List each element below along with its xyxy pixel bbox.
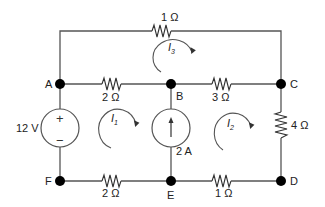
loop-arrow-i3 xyxy=(153,40,192,72)
label-i-src: 2 A xyxy=(176,145,193,157)
right-branch xyxy=(275,84,287,181)
label-node-c: C xyxy=(290,78,298,90)
plus-sign: + xyxy=(56,111,64,126)
label-node-b: B xyxy=(176,90,183,102)
label-r-top: 1 Ω xyxy=(161,11,178,23)
node-c xyxy=(276,79,286,89)
resistor-bc-3ohm xyxy=(212,78,231,90)
wire-top-right xyxy=(171,31,281,84)
resistor-fe-2ohm xyxy=(102,175,121,187)
label-r-cd: 4 Ω xyxy=(291,119,308,131)
resistor-cd-4ohm xyxy=(275,112,287,138)
node-a xyxy=(55,79,65,89)
node-e xyxy=(166,176,176,186)
label-i3: I3 xyxy=(168,41,175,55)
label-v-src: 12 V xyxy=(16,122,39,134)
label-i2: I2 xyxy=(227,117,234,131)
resistor-ab-2ohm xyxy=(102,78,121,90)
label-r-fe: 2 Ω xyxy=(102,187,119,199)
node-d xyxy=(276,176,286,186)
arrow-i2-icon xyxy=(247,122,254,129)
minus-sign: − xyxy=(56,133,64,148)
resistor-ed-1ohm xyxy=(212,175,231,187)
arrow-i1-icon xyxy=(132,120,139,127)
label-r-ed: 1 Ω xyxy=(215,187,232,199)
middle-branch xyxy=(152,84,190,181)
loop-arrow-i2 xyxy=(214,113,251,150)
label-r-ab: 2 Ω xyxy=(102,91,119,103)
resistor-top-1ohm xyxy=(152,25,171,37)
node-f xyxy=(55,176,65,186)
label-node-a: A xyxy=(45,78,53,90)
label-node-f: F xyxy=(45,175,52,187)
label-node-d: D xyxy=(290,175,298,187)
node-b xyxy=(166,79,176,89)
label-i1: I1 xyxy=(111,112,118,126)
label-node-e: E xyxy=(167,189,174,201)
loop-arrow-i1 xyxy=(99,109,136,148)
label-r-bc: 3 Ω xyxy=(212,91,229,103)
circuit-diagram: 1 Ω 2 Ω 3 Ω 4 Ω 2 Ω 1 Ω 12 V + − 2 A A B… xyxy=(0,0,325,207)
wire-top-left xyxy=(60,31,152,84)
